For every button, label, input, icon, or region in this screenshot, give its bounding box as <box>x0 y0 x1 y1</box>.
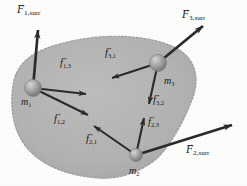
vector-arrow-glyph-f12: → <box>54 110 57 118</box>
vector-arrow-glyph-f21: → <box>86 130 89 138</box>
label-force-f3-2: →f3,2 <box>153 95 164 106</box>
label-force-F1-surr: →F1,surr <box>17 4 40 16</box>
diagram-canvas <box>0 0 247 186</box>
label-force-f2-1: →f2,1 <box>86 134 97 145</box>
vector-arrow-glyph-f13: → <box>60 54 63 62</box>
vector-arrow-glyph-f31: → <box>105 44 108 52</box>
label-force-f2-3: →f2,3 <box>148 117 159 128</box>
vector-arrow-glyph-f23: → <box>148 113 151 121</box>
physics-diagram-figure: →F1,surr →F3,surr →F2,surr →f1,3 →f1,2 →… <box>0 0 247 186</box>
vector-arrow-glyph-F2: → <box>186 140 193 149</box>
system-boundary-blob <box>12 36 196 178</box>
mass-label-m2: m2 <box>129 166 139 176</box>
label-force-f3-1: →f3,1 <box>105 48 116 59</box>
sphere-m1 <box>25 80 42 97</box>
label-force-f1-3: →f1,3 <box>60 58 71 69</box>
vector-arrow-glyph-f32: → <box>153 91 156 99</box>
label-force-F3-surr: →F3,surr <box>182 9 205 21</box>
label-force-f1-2: →f1,2 <box>54 114 65 125</box>
mass-label-m3: m3 <box>164 76 174 86</box>
mass-label-m1: m1 <box>21 97 31 107</box>
sphere-m3 <box>150 55 167 72</box>
vector-arrow-glyph-F1: → <box>17 0 24 8</box>
vector-arrow-glyph-F3: → <box>182 5 189 14</box>
sphere-m2 <box>130 149 143 162</box>
label-force-F2-surr: →F2,surr <box>186 144 209 156</box>
